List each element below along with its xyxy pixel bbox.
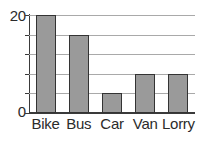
bar-slot bbox=[95, 15, 128, 113]
bars bbox=[29, 15, 195, 113]
bar-bike[interactable] bbox=[36, 15, 56, 113]
bar-slot bbox=[129, 15, 162, 113]
bar-slot bbox=[162, 15, 195, 113]
x-axis-label-bus: Bus bbox=[62, 116, 95, 131]
y-axis-tick-label-0: 0 bbox=[18, 104, 26, 119]
bar-slot bbox=[62, 15, 95, 113]
bar-chart: 20 0 BikeBusCarVanLorry bbox=[0, 0, 201, 148]
y-axis-tick-0 bbox=[25, 113, 29, 114]
bar-van[interactable] bbox=[135, 74, 155, 113]
bar-bus[interactable] bbox=[69, 35, 89, 113]
x-axis-label-car: Car bbox=[95, 116, 128, 131]
y-axis-tick-label-20: 20 bbox=[10, 8, 26, 23]
bar-lorry[interactable] bbox=[168, 74, 188, 113]
x-axis-label-bike: Bike bbox=[29, 116, 62, 131]
bar-car[interactable] bbox=[102, 93, 122, 113]
x-axis-labels: BikeBusCarVanLorry bbox=[29, 116, 201, 138]
plot-area bbox=[29, 15, 195, 113]
x-axis-label-lorry: Lorry bbox=[162, 116, 195, 131]
bar-slot bbox=[29, 15, 62, 113]
x-axis-label-van: Van bbox=[129, 116, 162, 131]
y-axis-labels: 20 0 bbox=[0, 0, 26, 148]
